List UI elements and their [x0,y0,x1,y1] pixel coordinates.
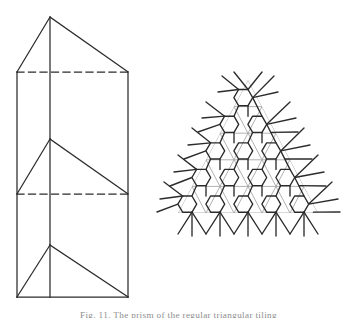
spike-left-1a [206,102,225,116]
hexagon-r3-c0 [220,116,239,132]
hexagon-r3-c1 [248,116,267,132]
prism-edge-bottom-right [50,245,128,297]
figure-page: Fig. 11. The prism of the regular triang… [0,0,357,318]
lattice-right-2 [220,133,262,213]
hexagon-r2-c1 [234,143,253,159]
prism-top-face [17,17,128,139]
lattice-right-0 [248,80,318,213]
prism-edge-mid-left [17,139,50,194]
spike-left-4b [160,196,183,199]
tiling-lattice-grid [178,80,318,213]
hexagon-r1-c1 [220,169,239,185]
tiling-hexagon-overlay [178,90,309,213]
spike-bottom-4a [262,212,276,234]
spike-bottom-3c [248,212,262,234]
spike-left-4c [157,204,178,212]
prism-edge-apex-right [50,17,128,72]
triangular-tiling-diagram [157,72,340,236]
hexagon-r1-c0 [192,169,211,185]
spike-left-2b [188,143,211,145]
hexagon-r2-c0 [206,143,225,159]
spike-left-1c [198,124,220,132]
prism-hidden-edges [17,72,128,194]
prism-vertical-edges [17,72,128,297]
spike-bottom-1c [192,212,206,234]
prism-edge-bottom-left [17,245,50,297]
spike-right-1b [267,118,296,124]
spike-bottom-2a [206,212,220,234]
hexagon-r0-c1 [206,196,225,212]
spike-bottom-3a [234,212,248,234]
hexagon-r4-c0 [234,90,253,106]
spike-bottom-4c [276,212,290,234]
hexagon-r0-c0 [178,196,197,212]
hexagon-r2-c2 [262,143,281,159]
lattice-left-0 [178,80,248,213]
hexagon-r1-c2 [248,169,267,185]
spike-apex-4 [218,90,239,93]
hexagon-r0-c2 [234,196,253,212]
spike-left-3c [170,178,192,187]
figure-caption: Fig. 11. The prism of the regular triang… [0,310,357,318]
spike-apex-3 [222,76,239,90]
hexagon-r1-c3 [276,169,295,185]
spike-bottom-5a [290,212,304,234]
spike-bottom-2c [220,212,234,234]
spike-apex-2 [248,72,262,90]
spike-left-3b [174,169,197,172]
hexagon-r0-c3 [262,196,281,212]
figure-illustration [0,0,357,318]
lattice-left-2 [234,133,276,213]
spike-bottom-1a [178,212,192,234]
prism-middle-wedge [17,139,128,194]
prism-diagram [17,17,128,297]
prism-edge-apex-left [17,17,50,72]
prism-edge-mid-right [50,139,128,194]
spike-left-2c [184,151,206,159]
spike-right-1a [267,102,290,124]
prism-bottom-wedge [17,245,128,297]
spike-bottom-5c [304,212,318,234]
hexagon-r0-c4 [290,196,309,212]
spike-left-1b [202,116,225,118]
